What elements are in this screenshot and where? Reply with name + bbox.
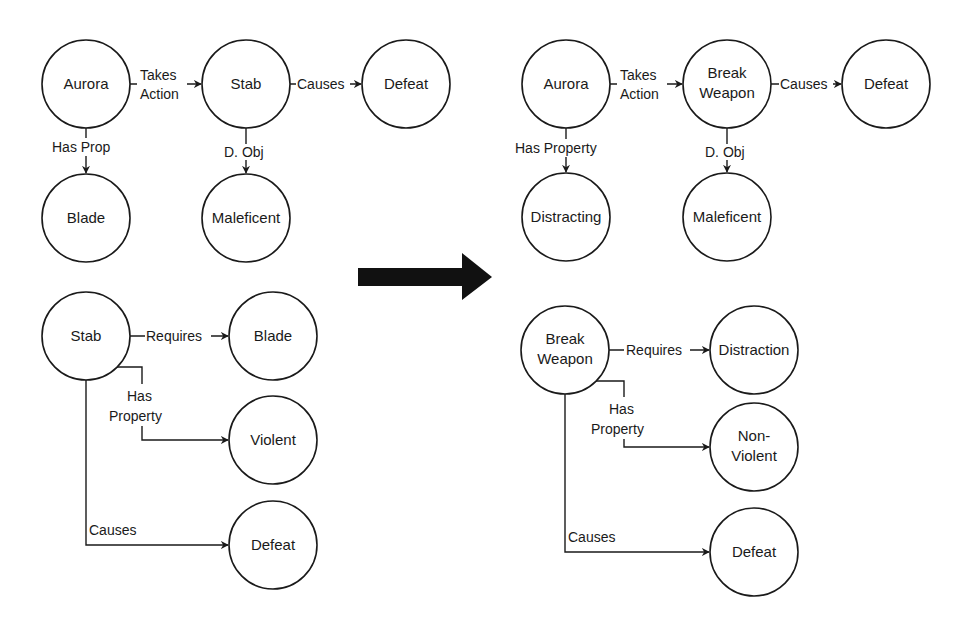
edge-label: Causes [297, 76, 344, 92]
node-blade: Blade [42, 174, 130, 262]
edge-label: Has [609, 401, 634, 417]
edge-has-property: Has Property [108, 367, 228, 440]
edge-label: Requires [626, 342, 682, 358]
edge-label: Action [620, 86, 659, 102]
node-distracting: Distracting [522, 173, 610, 261]
node-stab: Stab [42, 292, 130, 380]
svg-text:Break: Break [707, 64, 747, 81]
edge-takes-action: Takes Action [610, 64, 682, 104]
edge-label: Causes [780, 76, 827, 92]
edge-d-obj: D. Obj [703, 128, 751, 172]
node-aurora: Aurora [42, 40, 130, 128]
node-break-weapon: Break Weapon [683, 40, 771, 128]
node-stab: Stab [202, 40, 290, 128]
svg-text:Blade: Blade [67, 209, 105, 226]
edge-label: Has [127, 388, 152, 404]
node-maleficent: Maleficent [683, 173, 771, 261]
edge-has-prop: Has Prop [50, 128, 124, 173]
node-distraction: Distraction [710, 306, 798, 394]
edge-has-property: Has Property [590, 381, 709, 447]
node-non-violent: Non- Violent [710, 403, 798, 491]
edge-causes: Causes [771, 76, 841, 92]
right-arrow-icon [358, 253, 492, 300]
left-top-graph: Takes Action Causes Has Prop D. Obj Auro… [42, 40, 450, 262]
right-bottom-graph: Requires Has Property Causes Break Weapo… [521, 306, 798, 596]
node-aurora: Aurora [522, 40, 610, 128]
diagram-canvas: Takes Action Causes Has Prop D. Obj Auro… [0, 0, 966, 624]
edge-label: Property [109, 408, 162, 424]
svg-text:Defeat: Defeat [384, 75, 429, 92]
svg-text:Maleficent: Maleficent [693, 208, 762, 225]
svg-text:Defeat: Defeat [864, 75, 909, 92]
edge-label: D. Obj [224, 144, 264, 160]
svg-text:Break: Break [545, 330, 585, 347]
edge-label: Requires [146, 328, 202, 344]
svg-text:Defeat: Defeat [251, 536, 296, 553]
node-violent: Violent [229, 396, 317, 484]
node-break-weapon: Break Weapon [521, 306, 609, 394]
svg-text:Weapon: Weapon [537, 350, 593, 367]
edge-d-obj: D. Obj [222, 128, 270, 173]
svg-text:Weapon: Weapon [699, 84, 755, 101]
node-defeat: Defeat [710, 508, 798, 596]
node-maleficent: Maleficent [202, 174, 290, 262]
svg-text:Aurora: Aurora [543, 75, 589, 92]
edge-label: Has Prop [52, 139, 111, 155]
edge-takes-action: Takes Action [130, 64, 201, 104]
svg-text:Distraction: Distraction [719, 341, 790, 358]
edge-causes: Causes [290, 76, 361, 92]
node-defeat: Defeat [229, 501, 317, 589]
node-blade: Blade [229, 292, 317, 380]
edge-label: Takes [620, 67, 657, 83]
node-defeat: Defeat [842, 40, 930, 128]
edge-label: Has Property [515, 140, 597, 156]
right-top-graph: Takes Action Causes Has Property D. Obj … [514, 40, 930, 261]
edge-label: Action [140, 86, 179, 102]
edge-label: D. Obj [705, 144, 745, 160]
edge-label: Causes [89, 522, 136, 538]
svg-text:Violent: Violent [731, 447, 777, 464]
svg-text:Stab: Stab [231, 75, 262, 92]
svg-text:Violent: Violent [250, 431, 296, 448]
edge-label: Property [591, 421, 644, 437]
svg-text:Defeat: Defeat [732, 543, 777, 560]
edge-requires: Requires [609, 342, 709, 358]
svg-text:Maleficent: Maleficent [212, 209, 281, 226]
svg-text:Distracting: Distracting [531, 208, 602, 225]
svg-text:Blade: Blade [254, 327, 292, 344]
svg-text:Non-: Non- [738, 427, 771, 444]
svg-text:Aurora: Aurora [63, 75, 109, 92]
node-defeat: Defeat [362, 40, 450, 128]
edge-label: Causes [568, 529, 615, 545]
edge-has-property: Has Property [514, 128, 618, 172]
left-bottom-graph: Requires Has Property Causes Stab Blade … [42, 292, 317, 589]
svg-text:Stab: Stab [71, 327, 102, 344]
edge-label: Takes [140, 67, 177, 83]
edge-requires: Requires [130, 328, 228, 344]
